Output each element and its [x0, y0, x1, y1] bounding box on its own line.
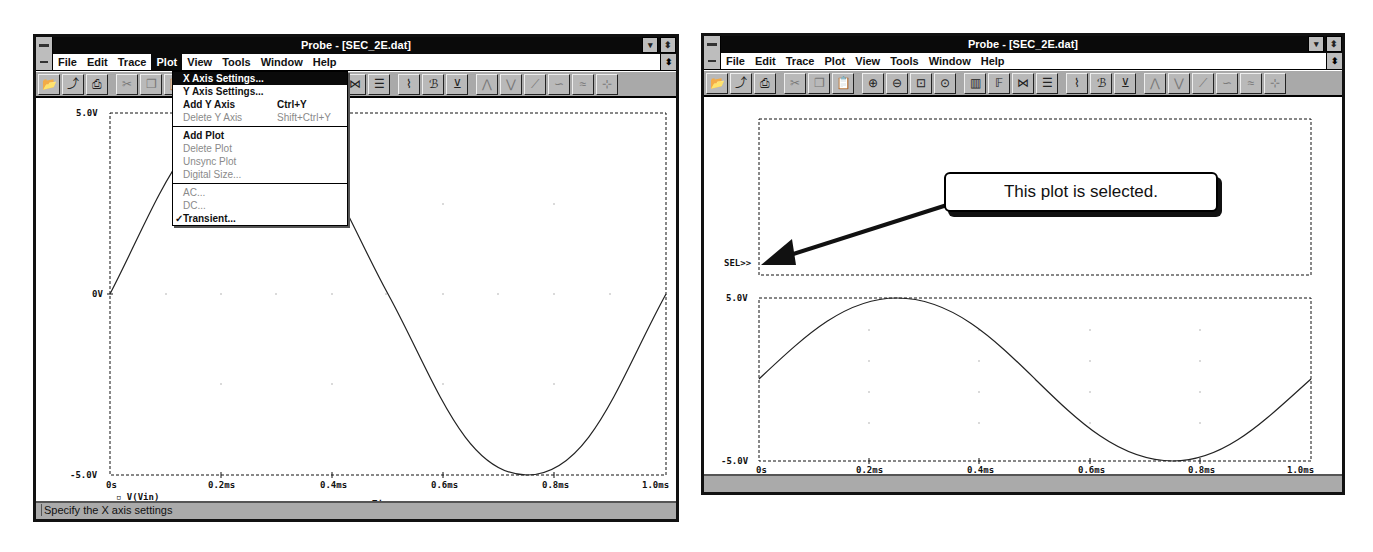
text-label-icon[interactable]: ℬ: [1090, 73, 1112, 94]
menu-trace[interactable]: Trace: [113, 54, 152, 70]
paste-icon[interactable]: 📋: [832, 73, 854, 94]
open-icon[interactable]: 📂: [706, 73, 728, 94]
menu-item-ac[interactable]: AC...: [173, 186, 347, 199]
menu-view[interactable]: View: [182, 54, 217, 70]
cursor-max-icon[interactable]: ≈: [1240, 73, 1262, 94]
cursor-slope-icon[interactable]: ⟋: [1192, 73, 1214, 94]
document-restore-button[interactable]: ⬍: [1326, 53, 1342, 69]
menu-bar: File Edit Trace Plot View Tools Window H…: [704, 53, 1342, 70]
document-menu-button[interactable]: [704, 53, 721, 69]
performance-icon[interactable]: ⋈: [1012, 73, 1034, 94]
document-menu-button[interactable]: [36, 54, 53, 70]
shortcut-label: Ctrl+Y: [277, 98, 307, 111]
cursor-trough-icon[interactable]: ⋁: [500, 74, 522, 95]
maximize-button[interactable]: ⬍: [1326, 36, 1342, 52]
title-bar: Probe - [SEC_2E.dat] ▾ ⬍: [36, 37, 676, 54]
trace-v-vin: [759, 298, 1311, 461]
minimize-button[interactable]: ▾: [1308, 36, 1324, 52]
zoom-in-icon[interactable]: ⊕: [862, 73, 884, 94]
menu-tools[interactable]: Tools: [217, 54, 256, 70]
print-icon[interactable]: ⎙: [754, 73, 776, 94]
menu-item-transient[interactable]: ✓ Transient...: [173, 212, 347, 225]
status-bar: Specify the X axis settings: [36, 501, 676, 519]
menu-plot[interactable]: Plot: [819, 53, 850, 69]
menu-tools[interactable]: Tools: [885, 53, 924, 69]
y-label-min: -5.0V: [70, 470, 97, 480]
eval-goal-icon[interactable]: ⌇: [1066, 73, 1088, 94]
menu-edit[interactable]: Edit: [82, 54, 113, 70]
menu-window[interactable]: Window: [256, 54, 308, 70]
cursor-slope-icon[interactable]: ⟋: [524, 74, 546, 95]
x-label: 0.4ms: [320, 480, 347, 490]
append-icon[interactable]: ⤴: [62, 74, 84, 95]
menu-item-delete-plot[interactable]: Delete Plot: [173, 142, 347, 155]
mark-data-icon[interactable]: ⊻: [446, 74, 468, 95]
minimize-button[interactable]: ▾: [642, 37, 658, 53]
document-restore-button[interactable]: ⬍: [660, 54, 676, 70]
menu-item-y-axis-settings[interactable]: Y Axis Settings...: [173, 85, 347, 98]
cursor-max-icon[interactable]: ≈: [572, 74, 594, 95]
append-icon[interactable]: ⤴: [730, 73, 752, 94]
menu-item-digital-size[interactable]: Digital Size...: [173, 168, 347, 181]
print-icon[interactable]: ⎙: [86, 74, 108, 95]
maximize-button[interactable]: ⬍: [660, 37, 676, 53]
mark-data-icon[interactable]: ⊻: [1114, 73, 1136, 94]
cursor-peak-icon[interactable]: ⋀: [476, 74, 498, 95]
sel-marker: SEL>>: [724, 258, 751, 268]
status-bar: [704, 474, 1342, 492]
cursor-min-icon[interactable]: ∽: [1216, 73, 1238, 94]
copy-icon[interactable]: ❐: [808, 73, 830, 94]
eval-goal-icon[interactable]: ⌇: [398, 74, 420, 95]
cut-icon[interactable]: ✂: [784, 73, 806, 94]
window-title: Probe - [SEC_2E.dat]: [301, 39, 411, 51]
waveform-plot[interactable]: [704, 99, 1342, 479]
system-menu-button[interactable]: [704, 36, 721, 53]
menu-bar: File Edit Trace Plot View Tools Window H…: [36, 54, 676, 71]
open-icon[interactable]: 📂: [38, 74, 60, 95]
x-label: 0.8ms: [542, 480, 569, 490]
cursor-min-icon[interactable]: ∽: [548, 74, 570, 95]
menu-edit[interactable]: Edit: [750, 53, 781, 69]
menu-window[interactable]: Window: [924, 53, 976, 69]
plot-area[interactable]: 5.0V 0V -5.0V 0s 0.2ms 0.4ms 0.6ms 0.8ms…: [36, 100, 676, 501]
waveform-plot[interactable]: [36, 100, 676, 504]
menu-item-add-plot[interactable]: Add Plot: [173, 129, 347, 142]
menu-trace[interactable]: Trace: [781, 53, 820, 69]
fourier-icon[interactable]: 𝔽: [988, 73, 1010, 94]
callout-annotation: This plot is selected.: [944, 172, 1218, 212]
menu-help[interactable]: Help: [976, 53, 1010, 69]
menu-item-dc[interactable]: DC...: [173, 199, 347, 212]
menu-file[interactable]: File: [721, 53, 750, 69]
log-x-icon[interactable]: ▥: [964, 73, 986, 94]
x-label: 0s: [106, 480, 117, 490]
menu-item-add-y-axis[interactable]: Add Y Axis Ctrl+Y: [173, 98, 347, 111]
plot-area[interactable]: SEL>> 5.0V -5.0V 0s 0.2ms 0.4ms 0.6ms 0.…: [704, 99, 1342, 474]
copy-icon[interactable]: ❐: [140, 74, 162, 95]
cursor-trough-icon[interactable]: ⋁: [1168, 73, 1190, 94]
text-label-icon[interactable]: ℬ: [422, 74, 444, 95]
window-title: Probe - [SEC_2E.dat]: [968, 38, 1078, 50]
menu-file[interactable]: File: [53, 54, 82, 70]
cursor-point-icon[interactable]: ⊹: [1264, 73, 1286, 94]
toolbar: 📂 ⤴ ⎙ ✂ ❐ 📋 ⊕ ⊖ ⊡ ⊙ ▥ 𝔽 ⋈ ☰ ⌇ ℬ ⊻ ⋀ ⋁ ⟋ …: [704, 71, 1342, 97]
title-bar: Probe - [SEC_2E.dat] ▾ ⬍: [704, 36, 1342, 53]
menu-item-unsync-plot[interactable]: Unsync Plot: [173, 155, 347, 168]
cut-icon[interactable]: ✂: [116, 74, 138, 95]
zoom-area-icon[interactable]: ⊡: [910, 73, 932, 94]
cursor-peak-icon[interactable]: ⋀: [1144, 73, 1166, 94]
zoom-fit-icon[interactable]: ⊙: [934, 73, 956, 94]
menu-plot[interactable]: Plot: [151, 54, 182, 70]
y-label-max: 5.0V: [726, 293, 748, 303]
menu-help[interactable]: Help: [308, 54, 342, 70]
add-trace-icon[interactable]: ☰: [1036, 73, 1058, 94]
menu-item-x-axis-settings[interactable]: X Axis Settings...: [173, 72, 347, 85]
system-menu-button[interactable]: [36, 37, 53, 54]
cursor-point-icon[interactable]: ⊹: [596, 74, 618, 95]
menu-item-delete-y-axis[interactable]: Delete Y Axis Shift+Ctrl+Y: [173, 111, 347, 124]
zoom-out-icon[interactable]: ⊖: [886, 73, 908, 94]
probe-window-left: Probe - [SEC_2E.dat] ▾ ⬍ File Edit Trace…: [33, 34, 679, 522]
plot-menu-dropdown: X Axis Settings... Y Axis Settings... Ad…: [172, 71, 348, 226]
add-trace-icon[interactable]: ☰: [368, 74, 390, 95]
arrow-head-icon: [761, 239, 796, 265]
menu-view[interactable]: View: [850, 53, 885, 69]
